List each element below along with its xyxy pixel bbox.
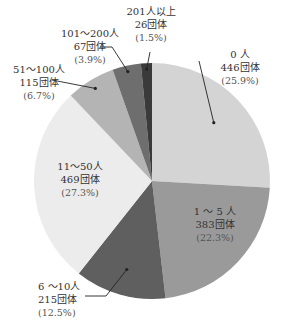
label-count: 67団体 [55, 40, 125, 53]
label-percent: (6.7%) [8, 89, 70, 102]
label-51-100-persons: 51～100人 115団体 (6.7%) [8, 63, 70, 102]
label-101-200-persons: 101～200人 67団体 (3.9%) [55, 27, 125, 66]
label-percent: (3.9%) [55, 53, 125, 66]
label-count: 469団体 [50, 173, 110, 186]
label-count: 26団体 [118, 18, 184, 31]
label-percent: (12.5%) [38, 306, 98, 319]
label-count: 446団体 [200, 61, 280, 74]
label-1-5-persons: 1 ～ 5 人 383団体 (22.3%) [180, 205, 250, 244]
label-name: 1 ～ 5 人 [180, 205, 250, 218]
label-201-plus-persons: 201人以上 26団体 (1.5%) [118, 5, 184, 44]
label-name: 101～200人 [55, 27, 125, 40]
label-6-10-persons: 6 ～10人 215団体 (12.5%) [38, 280, 98, 319]
label-percent: (25.9%) [200, 74, 280, 87]
label-percent: (22.3%) [180, 231, 250, 244]
label-count: 215団体 [38, 293, 98, 306]
label-0-persons: 0 人 446団体 (25.9%) [200, 48, 280, 87]
label-count: 383団体 [180, 218, 250, 231]
label-count: 115団体 [8, 76, 70, 89]
label-name: 11～50人 [50, 160, 110, 173]
label-percent: (1.5%) [118, 31, 184, 44]
label-name: 6 ～10人 [38, 280, 98, 293]
label-11-50-persons: 11～50人 469団体 (27.3%) [50, 160, 110, 199]
label-name: 0 人 [200, 48, 280, 61]
label-name: 201人以上 [118, 5, 184, 18]
label-percent: (27.3%) [50, 186, 110, 199]
